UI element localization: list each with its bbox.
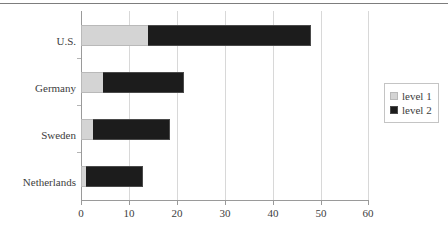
legend-swatch-icon-level2 [390,106,398,114]
legend-item-level2[interactable]: level 2 [390,103,432,117]
bar-segment-sweden-level2 [93,119,170,140]
x-axis-tick-label-3: 30 [220,206,231,220]
bar-segment-germany-level2 [103,72,184,93]
legend-swatch-icon-level1 [390,92,398,100]
y-axis-label-1: Germany [0,82,76,94]
gridline-50 [321,11,322,201]
x-axis-tick-label-6: 60 [363,206,374,220]
bar-row-sweden [81,119,170,140]
x-axis-tick-label-1: 10 [124,206,135,220]
bar-row-us [81,25,311,46]
x-axis-tick-0 [81,201,82,205]
bar-segment-netherlands-level2 [86,166,143,187]
legend-label-level1: level 1 [402,90,432,102]
top-divider-rule [0,3,448,4]
x-axis-tick-label-5: 50 [316,206,327,220]
x-axis-tick-60 [368,201,369,205]
bar-row-netherlands [81,166,143,187]
bar-segment-us-level2 [148,25,311,46]
x-axis-tick-20 [177,201,178,205]
bar-segment-germany-level1 [81,72,103,93]
bar-chart-figure: U.S. Germany Sweden Netherlands [0,0,448,235]
legend-label-level2: level 2 [402,104,432,116]
x-axis-tick-label-0: 0 [78,206,84,220]
plot-area [81,11,369,201]
legend-item-level1[interactable]: level 1 [390,89,432,103]
y-axis-tick-1 [77,105,81,106]
x-axis-tick-label-2: 20 [172,206,183,220]
bar-row-germany [81,72,184,93]
x-axis-tick-40 [273,201,274,205]
y-axis-label-2: Sweden [0,129,76,141]
y-axis-tick-0 [77,58,81,59]
x-axis-tick-50 [321,201,322,205]
y-axis-label-3: Netherlands [0,176,76,188]
y-axis-category-labels: U.S. Germany Sweden Netherlands [0,11,76,201]
x-axis-tick-10 [129,201,130,205]
chart-legend: level 1 level 2 [384,83,439,123]
bar-segment-sweden-level1 [81,119,93,140]
y-axis-tick-2 [77,152,81,153]
x-axis-tick-label-4: 40 [268,206,279,220]
gridline-60 [368,11,369,201]
bar-segment-us-level1 [81,25,148,46]
y-axis-label-0: U.S. [0,35,76,47]
x-axis-tick-labels: 0 10 20 30 40 50 60 [81,206,369,226]
x-axis-tick-30 [225,201,226,205]
